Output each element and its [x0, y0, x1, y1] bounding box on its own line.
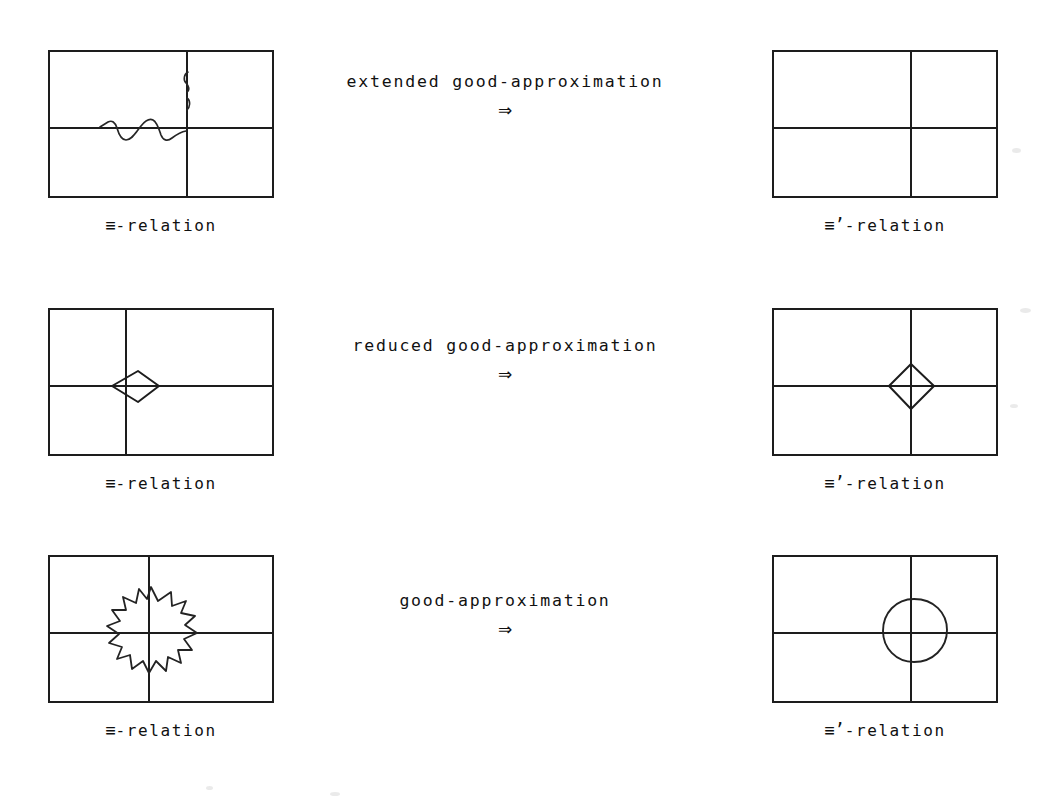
implies-arrow-icon: ⇒	[290, 619, 720, 639]
implies-arrow-icon: ⇒	[290, 364, 720, 384]
quadrant-frame	[772, 555, 998, 703]
equiv-prime-symbol: ≡’	[824, 473, 844, 493]
caption-text: -relation	[845, 721, 946, 740]
transform-reduced: reduced good-approximation ⇒	[290, 336, 720, 384]
quadrant-frame	[772, 308, 998, 456]
implies-arrow-icon: ⇒	[290, 100, 720, 120]
equiv-prime-symbol: ≡’	[824, 215, 844, 235]
transform-label: extended good-approximation	[290, 72, 720, 91]
caption-text: -relation	[116, 474, 217, 493]
figure-row-reduced: ≡-relation reduced good-approximation ⇒ …	[0, 258, 1055, 528]
caption-right-row3: ≡’-relation	[772, 720, 998, 740]
panel-left-row1	[48, 50, 274, 198]
panel-left-row2	[48, 308, 274, 456]
quadrant-frame	[48, 555, 274, 703]
quadrant-frame	[772, 50, 998, 198]
caption-right-row1: ≡’-relation	[772, 215, 998, 235]
figure-canvas: ≡-relation extended good-approximation ⇒…	[0, 0, 1055, 808]
equiv-symbol: ≡	[105, 720, 115, 740]
caption-text: -relation	[845, 216, 946, 235]
figure-row-good: ≡-relation good-approximation ⇒ ≡’-relat…	[0, 505, 1055, 785]
caption-right-row2: ≡’-relation	[772, 473, 998, 493]
caption-left-row3: ≡-relation	[48, 720, 274, 740]
scan-speck	[1010, 404, 1018, 408]
quadrant-frame	[48, 50, 274, 198]
equiv-symbol: ≡	[105, 215, 115, 235]
scan-speck	[1012, 148, 1021, 153]
caption-text: -relation	[116, 216, 217, 235]
transform-label: reduced good-approximation	[290, 336, 720, 355]
transform-label: good-approximation	[290, 591, 720, 610]
caption-left-row1: ≡-relation	[48, 215, 274, 235]
panel-left-row3	[48, 555, 274, 703]
figure-row-extended: ≡-relation extended good-approximation ⇒…	[0, 0, 1055, 270]
panel-right-row2	[772, 308, 998, 456]
caption-text: -relation	[845, 474, 946, 493]
caption-text: -relation	[116, 721, 217, 740]
scan-speck	[1020, 308, 1031, 313]
panel-right-row1	[772, 50, 998, 198]
quadrant-frame	[48, 308, 274, 456]
scan-speck	[206, 786, 213, 790]
equiv-symbol: ≡	[105, 473, 115, 493]
equiv-prime-symbol: ≡’	[824, 720, 844, 740]
transform-good: good-approximation ⇒	[290, 591, 720, 639]
panel-right-row3	[772, 555, 998, 703]
transform-extended: extended good-approximation ⇒	[290, 72, 720, 120]
caption-left-row2: ≡-relation	[48, 473, 274, 493]
scan-speck	[330, 792, 340, 796]
